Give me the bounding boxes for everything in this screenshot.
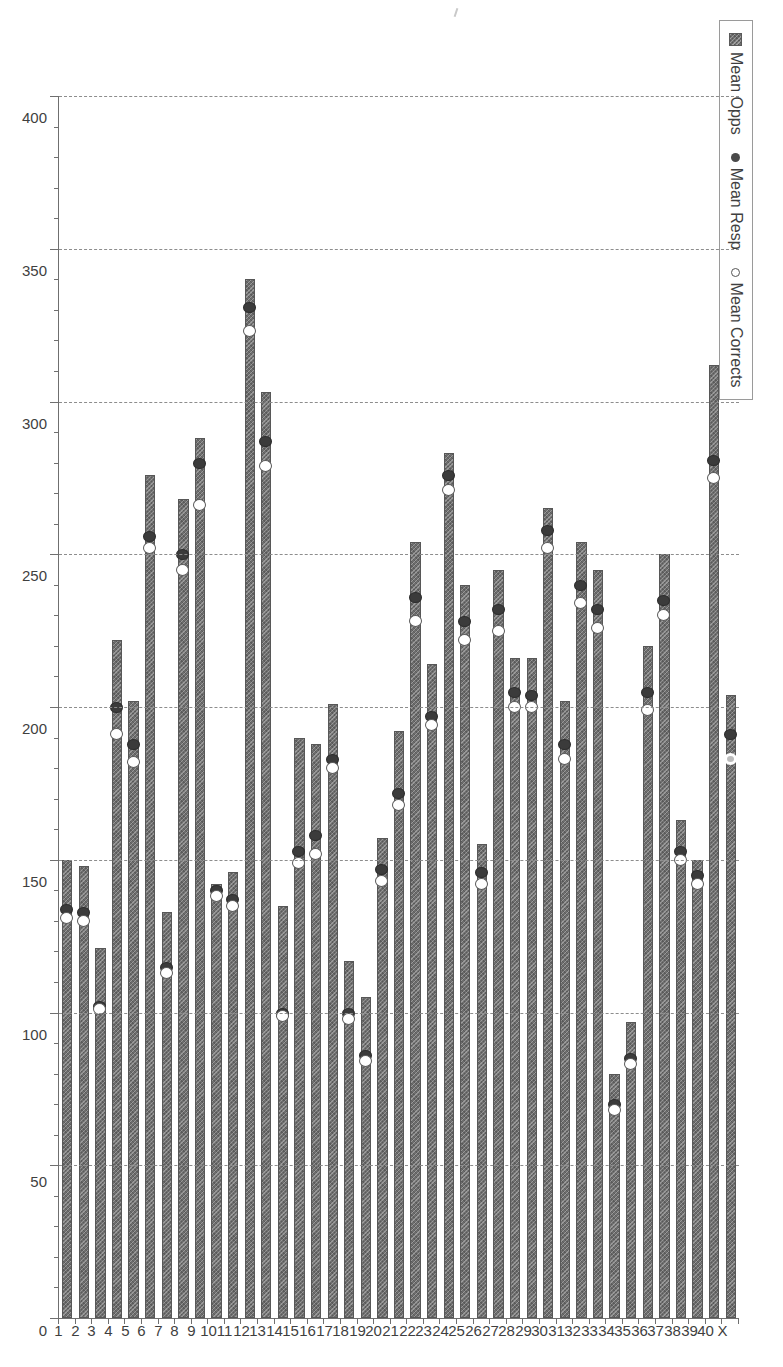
legend-swatch-mean-opps-icon — [730, 33, 743, 46]
marker-mean-corrects — [591, 622, 604, 634]
marker-mean-corrects — [77, 915, 90, 927]
category-axis-label: 6 — [138, 1322, 146, 1339]
bar-mean-opps — [211, 884, 221, 1318]
category-axis-label: 11 — [217, 1322, 233, 1339]
value-axis-minor-tick — [54, 1196, 59, 1197]
marker-mean-corrects — [243, 325, 256, 337]
rotated-chart-container: Mean Opps Mean Resp Mean Corrects Episod… — [0, 0, 783, 1367]
category-axis-label: X — [717, 1322, 727, 1339]
value-axis-tick — [50, 554, 59, 555]
value-axis-minor-tick — [54, 371, 59, 372]
category-axis-label: 5 — [121, 1322, 129, 1339]
value-axis-tick — [50, 860, 59, 861]
category-axis-label: 34 — [598, 1322, 615, 1339]
category-axis-label: 31 — [548, 1322, 565, 1339]
value-axis-tick — [50, 707, 59, 708]
category-axis-label: 12 — [233, 1322, 250, 1339]
bar-mean-opps — [129, 701, 139, 1318]
category-axis-label: 33 — [581, 1322, 598, 1339]
value-axis-minor-tick — [54, 1287, 59, 1288]
bar-mean-opps — [427, 664, 437, 1318]
bar-mean-opps — [643, 646, 653, 1318]
bar-mean-opps — [726, 695, 736, 1318]
marker-mean-corrects — [210, 890, 223, 902]
category-axis-label: 9 — [187, 1322, 195, 1339]
legend-dot-mean-resp-icon — [732, 153, 741, 162]
value-axis-tick — [50, 1013, 59, 1014]
legend-item-mean-resp: Mean Resp — [727, 153, 745, 250]
category-axis-label: 7 — [154, 1322, 162, 1339]
value-axis-tick — [50, 402, 59, 403]
marker-mean-corrects — [641, 704, 654, 716]
value-axis-tick-label: 50 — [30, 1174, 47, 1191]
gridline — [59, 707, 739, 708]
value-axis-minor-tick — [54, 279, 59, 280]
value-axis-minor-tick — [54, 615, 59, 616]
bar-mean-opps — [676, 820, 686, 1318]
value-axis-tick-label: 250 — [22, 567, 47, 584]
marker-mean-resp — [508, 687, 521, 698]
legend-item-mean-opps: Mean Opps — [727, 33, 745, 135]
bar-mean-opps — [692, 860, 702, 1318]
value-axis-minor-tick — [54, 768, 59, 769]
category-axis-line — [59, 1318, 739, 1319]
bar-mean-opps — [245, 279, 255, 1318]
marker-mean-corrects — [608, 1104, 621, 1116]
marker-mean-resp — [193, 458, 206, 469]
marker-mean-corrects — [226, 900, 239, 912]
marker-mean-resp — [127, 739, 140, 750]
marker-mean-resp — [392, 788, 405, 799]
value-axis-tick-label: 350 — [22, 261, 47, 278]
gridline — [59, 860, 739, 861]
value-axis-minor-tick — [54, 1104, 59, 1105]
gridline — [59, 402, 739, 403]
bar-mean-opps — [62, 860, 72, 1318]
category-axis-label: 27 — [482, 1322, 499, 1339]
bar-mean-opps — [394, 731, 404, 1318]
marker-mean-corrects — [160, 967, 173, 979]
marker-mean-corrects — [176, 564, 189, 576]
value-axis-minor-tick — [54, 1226, 59, 1227]
marker-mean-resp — [243, 302, 256, 313]
category-axis-label: 4 — [104, 1322, 112, 1339]
marker-mean-corrects — [724, 753, 737, 765]
value-axis-tick-label: 200 — [22, 720, 47, 737]
marker-mean-corrects — [259, 460, 272, 472]
marker-mean-corrects — [492, 625, 505, 637]
marker-mean-corrects — [60, 912, 73, 924]
chart-legend: Mean Opps Mean Resp Mean Corrects — [719, 20, 753, 400]
category-axis-tick — [58, 1318, 59, 1324]
category-axis-label: 22 — [399, 1322, 416, 1339]
category-axis-label: 30 — [531, 1322, 548, 1339]
value-axis-tick-label: 100 — [22, 1025, 47, 1042]
value-axis-minor-tick — [54, 157, 59, 158]
value-axis-minor-tick — [54, 127, 59, 128]
value-axis-minor-tick — [54, 921, 59, 922]
bar-mean-opps — [576, 542, 586, 1318]
marker-mean-resp — [541, 525, 554, 536]
bar-mean-opps — [709, 365, 719, 1318]
category-axis-label: 36 — [631, 1322, 648, 1339]
chart-canvas: Mean Opps Mean Resp Mean Corrects Episod… — [0, 0, 783, 1367]
value-axis-minor-tick — [54, 951, 59, 952]
bar-mean-opps — [510, 658, 520, 1318]
marker-mean-corrects — [342, 1013, 355, 1025]
gridline — [59, 554, 739, 555]
value-axis-minor-tick — [54, 1257, 59, 1258]
bar-mean-opps — [493, 570, 503, 1318]
category-axis-label: 37 — [648, 1322, 665, 1339]
category-axis-label: 16 — [299, 1322, 316, 1339]
value-axis-minor-tick — [54, 310, 59, 311]
marker-mean-corrects — [127, 756, 140, 768]
bar-mean-opps — [477, 844, 487, 1318]
bar-mean-opps — [178, 499, 188, 1318]
bar-mean-opps — [593, 570, 603, 1318]
value-axis-minor-tick — [54, 799, 59, 800]
bar-mean-opps — [261, 392, 271, 1318]
bar-mean-opps — [543, 508, 553, 1318]
value-axis-minor-tick — [54, 463, 59, 464]
bar-mean-opps — [460, 585, 470, 1318]
marker-mean-corrects — [309, 848, 322, 860]
bar-mean-opps — [410, 542, 420, 1318]
value-axis-tick — [50, 249, 59, 250]
